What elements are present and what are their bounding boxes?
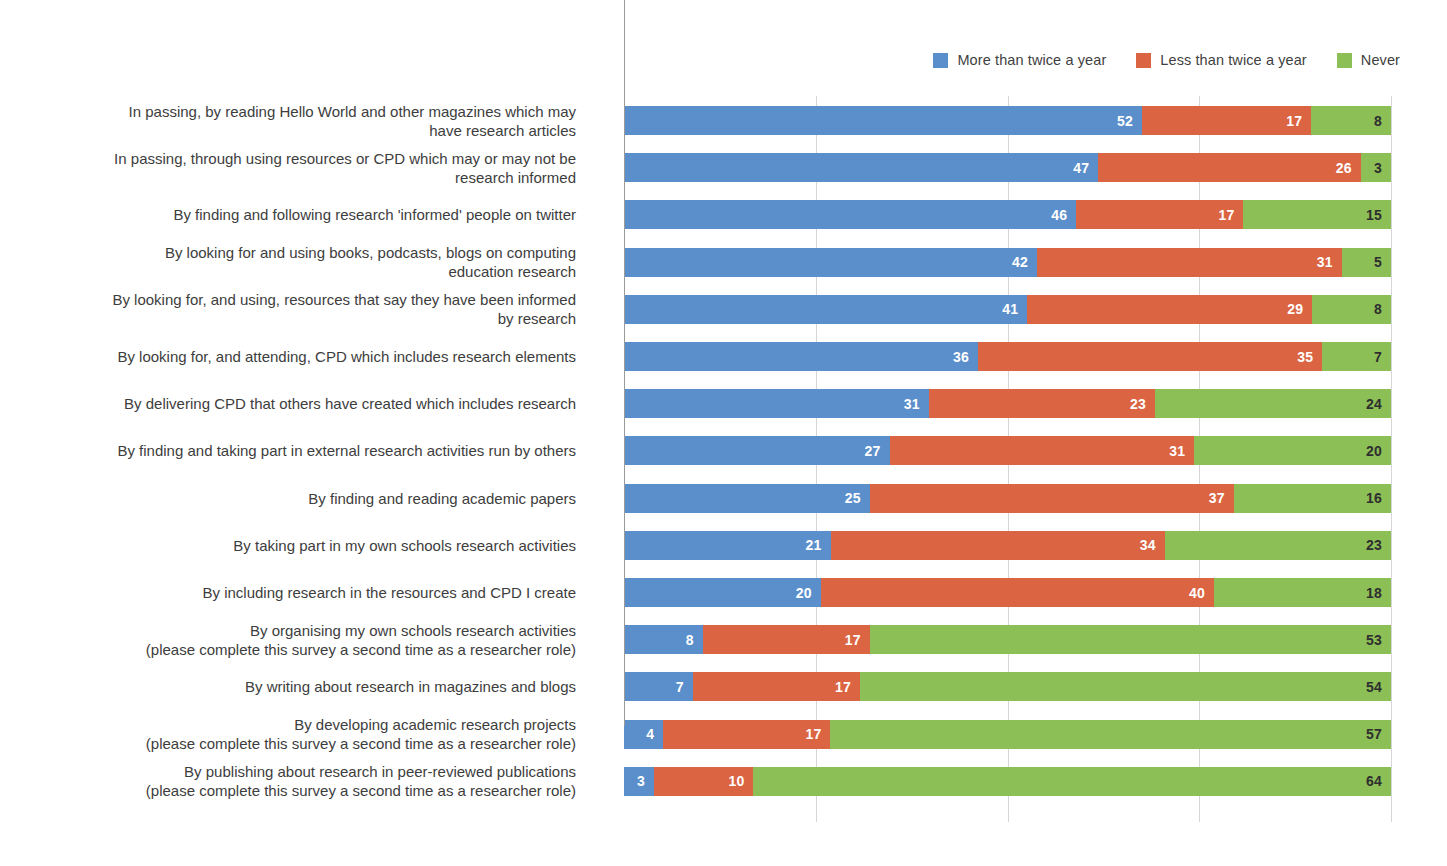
bar-segment-never[interactable]: 23 (1165, 531, 1391, 560)
bar-segment-value: 16 (1366, 490, 1391, 506)
legend-swatch-less-than-twice (1136, 53, 1151, 68)
bar-segment-less[interactable]: 35 (978, 342, 1322, 371)
bar-segment-more[interactable]: 41 (624, 295, 1027, 324)
category-label: By delivering CPD that others have creat… (0, 394, 576, 413)
bar-row[interactable]: 461715 (624, 200, 1391, 229)
bar-segment-value: 24 (1366, 396, 1391, 412)
bar-segment-more[interactable]: 27 (624, 436, 890, 465)
bar-segment-value: 34 (1140, 537, 1165, 553)
bar-segment-value: 15 (1366, 207, 1391, 223)
bar-segment-value: 17 (835, 679, 860, 695)
bar-segment-more[interactable]: 31 (624, 389, 929, 418)
bar-segment-more[interactable]: 47 (624, 153, 1098, 182)
y-axis-line (624, 0, 625, 726)
bar-segment-value: 31 (904, 396, 929, 412)
bar-row[interactable]: 312324 (624, 389, 1391, 418)
category-label: By looking for, and attending, CPD which… (0, 347, 576, 366)
bar-segment-never[interactable]: 7 (1322, 342, 1391, 371)
bar-segment-never[interactable]: 64 (753, 767, 1391, 796)
bar-segment-value: 53 (1366, 632, 1391, 648)
bar-row[interactable]: 31064 (624, 767, 1391, 796)
bar-segment-value: 8 (686, 632, 703, 648)
bar-segment-value: 8 (1374, 113, 1391, 129)
bar-segment-less[interactable]: 23 (929, 389, 1155, 418)
bar-segment-more[interactable]: 46 (624, 200, 1076, 229)
bar-segment-value: 36 (953, 349, 978, 365)
bar-segment-value: 18 (1366, 585, 1391, 601)
category-label: By looking for and using books, podcasts… (0, 243, 576, 281)
bar-segment-never[interactable]: 5 (1342, 248, 1391, 277)
category-label: By looking for, and using, resources tha… (0, 290, 576, 328)
bar-row[interactable]: 42315 (624, 248, 1391, 277)
bar-segment-more[interactable]: 8 (624, 625, 703, 654)
bar-segment-less[interactable]: 29 (1027, 295, 1312, 324)
category-label: By publishing about research in peer-rev… (0, 762, 576, 800)
bar-segment-value: 54 (1366, 679, 1391, 695)
bar-segment-never[interactable]: 54 (860, 672, 1391, 701)
bar-segment-value: 31 (1317, 254, 1342, 270)
bar-segment-value: 52 (1117, 113, 1142, 129)
bar-row[interactable]: 41298 (624, 295, 1391, 324)
bar-segment-more[interactable]: 42 (624, 248, 1037, 277)
bar-segment-never[interactable]: 8 (1312, 295, 1391, 324)
legend-item-2[interactable]: Never (1337, 52, 1400, 68)
bar-row[interactable]: 81753 (624, 625, 1391, 654)
bar-segment-value: 17 (845, 632, 870, 648)
bar-segment-never[interactable]: 3 (1361, 153, 1391, 182)
bar-segment-never[interactable]: 8 (1311, 106, 1391, 135)
bar-segment-value: 27 (865, 443, 890, 459)
category-label: By developing academic research projects… (0, 715, 576, 753)
bar-segment-more[interactable]: 3 (624, 767, 654, 796)
bar-segment-never[interactable]: 16 (1234, 484, 1391, 513)
bar-segment-less[interactable]: 40 (821, 578, 1214, 607)
bar-row[interactable]: 71754 (624, 672, 1391, 701)
bar-segment-value: 47 (1073, 160, 1098, 176)
bar-segment-less[interactable]: 17 (693, 672, 860, 701)
bar-segment-never[interactable]: 57 (830, 720, 1391, 749)
legend-label-1: Less than twice a year (1160, 52, 1306, 68)
bar-segment-never[interactable]: 24 (1155, 389, 1391, 418)
bar-segment-more[interactable]: 4 (624, 720, 663, 749)
bar-segment-less[interactable]: 17 (703, 625, 870, 654)
bar-row[interactable]: 213423 (624, 531, 1391, 560)
bar-segment-more[interactable]: 7 (624, 672, 693, 701)
bar-row[interactable]: 253716 (624, 484, 1391, 513)
bar-segment-more[interactable]: 52 (624, 106, 1142, 135)
bar-segment-value: 42 (1012, 254, 1037, 270)
legend-swatch-never (1337, 53, 1352, 68)
bar-segment-more[interactable]: 21 (624, 531, 831, 560)
bar-segment-more[interactable]: 20 (624, 578, 821, 607)
bar-segment-less[interactable]: 31 (890, 436, 1195, 465)
legend-item-1[interactable]: Less than twice a year (1136, 52, 1306, 68)
bar-row[interactable]: 47263 (624, 153, 1391, 182)
bar-row[interactable]: 36357 (624, 342, 1391, 371)
bar-row[interactable]: 52178 (624, 106, 1391, 135)
bar-segment-never[interactable]: 20 (1194, 436, 1391, 465)
bar-segment-value: 7 (676, 679, 693, 695)
bar-row[interactable]: 273120 (624, 436, 1391, 465)
legend-item-0[interactable]: More than twice a year (933, 52, 1106, 68)
bar-segment-less[interactable]: 31 (1037, 248, 1342, 277)
bar-segment-less[interactable]: 17 (1076, 200, 1243, 229)
bar-segment-less[interactable]: 17 (663, 720, 830, 749)
category-label: By including research in the resources a… (0, 583, 576, 602)
bar-segment-less[interactable]: 37 (870, 484, 1234, 513)
bar-segment-value: 57 (1366, 726, 1391, 742)
bar-segment-value: 5 (1374, 254, 1391, 270)
bar-row[interactable]: 204018 (624, 578, 1391, 607)
bar-segment-less[interactable]: 17 (1142, 106, 1311, 135)
bar-segment-never[interactable]: 18 (1214, 578, 1391, 607)
bar-segment-never[interactable]: 53 (870, 625, 1391, 654)
bar-segment-more[interactable]: 25 (624, 484, 870, 513)
category-label: In passing, by reading Hello World and o… (0, 102, 576, 140)
bar-row[interactable]: 41757 (624, 720, 1391, 749)
bar-segment-value: 10 (729, 773, 754, 789)
bar-segment-value: 3 (637, 773, 654, 789)
gridline-3 (1391, 96, 1392, 822)
bar-segment-never[interactable]: 15 (1243, 200, 1391, 229)
bar-segment-less[interactable]: 10 (654, 767, 754, 796)
bar-segment-less[interactable]: 26 (1098, 153, 1360, 182)
bar-segment-less[interactable]: 34 (831, 531, 1165, 560)
category-label: By taking part in my own schools researc… (0, 536, 576, 555)
bar-segment-more[interactable]: 36 (624, 342, 978, 371)
